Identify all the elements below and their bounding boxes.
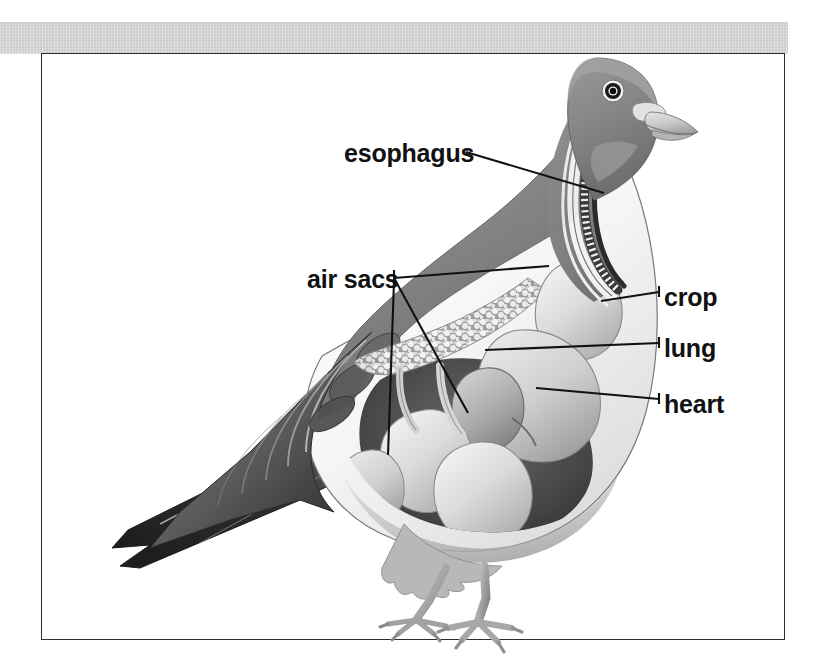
page-root: esophagus air sacs crop lung [0,0,830,668]
scan-header-band [0,22,788,53]
figure-frame [41,53,785,640]
